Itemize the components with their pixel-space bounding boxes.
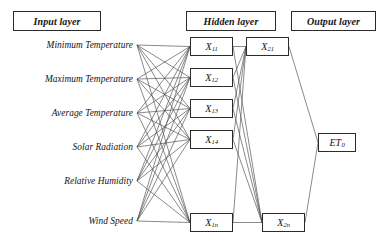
hidden-node-x12-subscript: 12 [211, 76, 218, 83]
hidden-node-x14-subscript: 14 [211, 138, 218, 145]
hidden-node-x13: X13 [190, 99, 233, 118]
hidden-node-x14-base: X [205, 134, 211, 145]
input-node-relative-humidity: Relative Humidity [0, 176, 133, 186]
layer-title-hidden-label: Hidden layer [204, 16, 259, 27]
hidden-node-x11: X11 [190, 37, 233, 56]
hidden-node-x1n-subscript: 1n [211, 221, 218, 228]
input-node-solar-radiation: Solar Radiation [0, 142, 133, 152]
hidden-node-x2n: X2n [262, 213, 305, 232]
hidden-node-x1n-base: X [205, 217, 211, 228]
input-node-min-temperature: Minimum Temperature [0, 40, 133, 50]
layer-title-output: Output layer [291, 11, 376, 31]
input-node-solar-radiation-label: Solar Radiation [73, 142, 133, 152]
input-node-relative-humidity-label: Relative Humidity [64, 176, 133, 186]
input-node-wind-speed-label: Wind Speed [89, 216, 134, 226]
hidden-node-x1n: X1n [190, 213, 233, 232]
layer-title-hidden: Hidden layer [186, 11, 276, 31]
output-node-et0-base: ET [330, 137, 342, 148]
hidden-node-x13-subscript: 13 [211, 107, 218, 114]
hidden-node-x14: X14 [190, 130, 233, 149]
hidden-node-x12: X12 [190, 68, 233, 87]
input-node-avg-temperature-label: Average Temperature [52, 108, 133, 118]
input-node-max-temperature: Maximum Temperature [0, 74, 133, 84]
hidden-node-x21: X21 [246, 37, 289, 56]
input-node-max-temperature-label: Maximum Temperature [45, 74, 133, 84]
hidden-node-x12-base: X [205, 72, 211, 83]
input-node-avg-temperature: Average Temperature [0, 108, 133, 118]
output-node-et0-subscript: 0 [341, 141, 344, 148]
hidden-node-x13-base: X [205, 103, 211, 114]
hidden-node-x21-base: X [261, 41, 267, 52]
diagram-canvas: Input layer Hidden layer Output layer Mi… [0, 0, 384, 252]
output-node-et0: ET0 [318, 133, 356, 152]
layer-title-output-label: Output layer [307, 16, 360, 27]
layer-title-input: Input layer [13, 11, 101, 31]
hidden-node-x2n-base: X [277, 217, 283, 228]
layer-title-input-label: Input layer [34, 16, 81, 27]
input-node-wind-speed: Wind Speed [0, 216, 133, 226]
hidden-node-x11-base: X [205, 41, 211, 52]
input-node-min-temperature-label: Minimum Temperature [47, 40, 133, 50]
hidden-node-x21-subscript: 21 [267, 45, 274, 52]
hidden-node-x2n-subscript: 2n [283, 221, 290, 228]
hidden-node-x11-subscript: 11 [212, 45, 218, 52]
